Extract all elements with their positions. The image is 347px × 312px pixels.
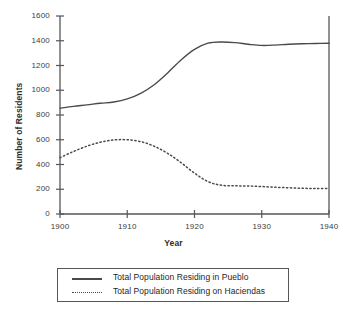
x-tick-label: 1910	[107, 222, 147, 231]
series-line-pueblo	[60, 42, 329, 108]
plot-area	[0, 0, 347, 312]
legend-label-haciendas: Total Population Residing on Haciendas	[113, 286, 265, 296]
legend-entry-pueblo: Total Population Residing in Pueblo	[58, 272, 288, 287]
y-tick-label: 600	[16, 135, 50, 144]
y-tick-label: 1400	[16, 36, 50, 45]
x-tick-label: 1900	[40, 222, 80, 231]
legend-swatch-dotted-line	[72, 292, 102, 293]
y-tick-label: 1200	[16, 61, 50, 70]
chart-legend: Total Population Residing in Pueblo Tota…	[57, 268, 289, 302]
x-tick-label: 1930	[242, 222, 282, 231]
y-tick-label: 1600	[16, 11, 50, 20]
legend-entry-haciendas: Total Population Residing on Haciendas	[58, 286, 288, 301]
data-series-group	[60, 42, 329, 189]
axis-lines	[60, 16, 329, 214]
y-tick-label: 1000	[16, 85, 50, 94]
legend-label-pueblo: Total Population Residing in Pueblo	[113, 272, 248, 282]
x-tick-label: 1920	[175, 222, 215, 231]
y-tick-label: 0	[16, 209, 50, 218]
y-tick-label: 400	[16, 160, 50, 169]
series-line-haciendas	[60, 140, 329, 189]
x-tick-label: 1940	[309, 222, 347, 231]
line-chart: Number of Residents Year 020040060080010…	[0, 0, 347, 312]
y-tick-label: 800	[16, 110, 50, 119]
y-tick-label: 200	[16, 184, 50, 193]
legend-swatch-solid-line	[72, 278, 102, 280]
